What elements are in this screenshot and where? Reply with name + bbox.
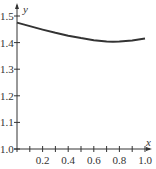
y-axis-label: y <box>22 3 28 15</box>
chart: y x 1.01.11.21.31.41.5 0.20.40.60.81.0 <box>0 0 156 169</box>
y-tick-label: 1.0 <box>0 143 14 155</box>
y-tick-label: 1.5 <box>0 10 14 22</box>
x-axis-label: x <box>145 136 151 148</box>
x-tick-label: 1.0 <box>138 154 152 166</box>
y-tick-label: 1.1 <box>0 116 14 128</box>
x-tick-label: 0.2 <box>36 154 50 166</box>
y-tick-label: 1.4 <box>0 37 14 49</box>
x-tick-label: 0.6 <box>87 154 101 166</box>
x-tick-label: 0.4 <box>61 154 75 166</box>
y-tick-label: 1.2 <box>0 90 14 102</box>
data-curve <box>17 23 145 42</box>
x-tick-label: 0.8 <box>113 154 127 166</box>
y-axis-arrow-icon <box>15 3 19 9</box>
y-tick-label: 1.3 <box>0 63 14 75</box>
